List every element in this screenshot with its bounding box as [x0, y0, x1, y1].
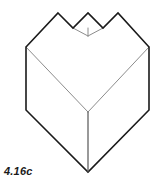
- figure-background: [0, 0, 158, 186]
- figure-caption-label: 4.16c: [4, 164, 33, 178]
- isometric-solid-figure: [0, 0, 158, 186]
- figure-container: 4.16c: [0, 0, 158, 186]
